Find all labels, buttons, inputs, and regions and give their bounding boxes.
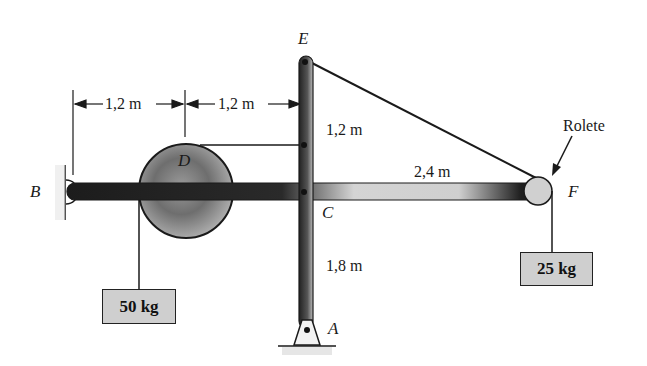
dim-d-to-post: 1,2 m [218,96,254,112]
label-e: E [298,30,308,47]
label-d: D [178,152,190,169]
dim-b-to-d: 1,2 m [105,96,141,112]
mass-25kg-label: 25 kg [537,259,576,279]
dim-e-to-d-level: 1,2 m [326,122,362,138]
rolete-arrow [552,136,572,176]
label-c: C [322,204,333,221]
label-a: A [328,320,338,337]
mass-50kg: 50 kg [102,289,176,324]
mass-25kg: 25 kg [520,252,593,286]
mass-50kg-label: 50 kg [119,297,158,317]
roller-f [524,177,552,205]
label-b: B [30,183,40,200]
label-rolete: Rolete [563,118,605,134]
frame-diagram [0,0,647,366]
dim-c-to-a: 1,8 m [326,258,362,274]
dim-c-to-f: 2,4 m [414,164,450,180]
label-f: F [568,183,578,200]
